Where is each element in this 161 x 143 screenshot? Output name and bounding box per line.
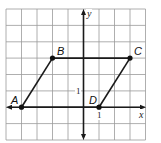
- parallelogram-abcd: [22, 58, 131, 107]
- x-unit-tick-label: 1: [97, 110, 102, 120]
- point-b: [50, 56, 55, 61]
- label-d: D: [89, 94, 97, 106]
- x-axis-label: x: [138, 109, 144, 120]
- label-c: C: [134, 45, 142, 57]
- label-b: B: [57, 45, 64, 57]
- point-a: [19, 105, 24, 110]
- coordinate-plane: A B C D y x 1 1: [0, 0, 161, 143]
- point-c: [127, 56, 132, 61]
- label-a: A: [10, 94, 18, 106]
- y-axis-label: y: [86, 8, 92, 19]
- grid-lines: [6, 9, 146, 140]
- y-unit-tick-label: 1: [76, 86, 81, 96]
